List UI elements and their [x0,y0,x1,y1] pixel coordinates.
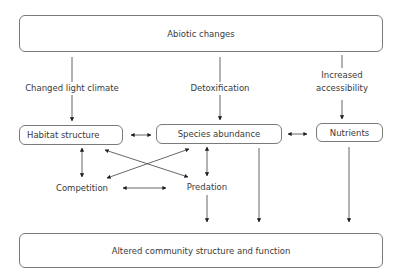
edge-label-changed-light-climate: Changed light climate [22,83,122,94]
edge-label-increased: Increased [317,70,367,81]
node-abiotic-changes-label: Abiotic changes [167,29,235,39]
node-habitat-structure-label: Habitat structure [27,130,100,140]
node-abiotic-changes: Abiotic changes [19,15,383,52]
node-competition: Competition [52,183,112,194]
node-habitat-structure: Habitat structure [19,125,123,145]
node-nutrients-label: Nutrients [330,128,369,138]
node-species-abundance: Species abundance [156,124,282,144]
node-altered-community: Altered community structure and function [19,233,383,268]
node-nutrients: Nutrients [316,123,383,142]
node-species-abundance-label: Species abundance [178,129,261,139]
edge-label-accessibility: accessibility [312,83,372,94]
node-altered-community-label: Altered community structure and function [112,246,291,256]
node-predation: Predation [182,182,232,193]
edge-label-detoxification: Detoxification [185,83,255,94]
